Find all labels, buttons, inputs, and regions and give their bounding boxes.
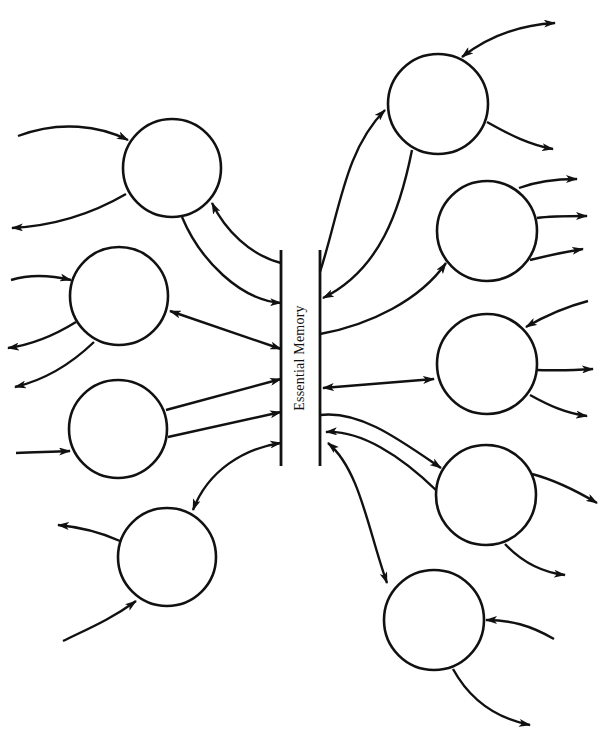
- edge-memory-to-R1: [320, 110, 385, 272]
- edge-L1-to-memory: [182, 217, 281, 303]
- edge-L2-memory: [170, 311, 281, 349]
- edge-L3-memory-2: [168, 412, 281, 437]
- process-node-R4: [436, 445, 536, 545]
- edge-R2-output-1: [519, 179, 577, 188]
- process-node-L3: [69, 380, 167, 478]
- edge-L3-input: [16, 451, 70, 453]
- process-node-L2: [70, 247, 168, 345]
- edge-L2-output-1: [8, 322, 76, 348]
- process-node-R3: [437, 314, 537, 414]
- edge-memory-to-R4: [320, 414, 441, 468]
- edge-R3-output-2: [530, 395, 587, 416]
- edge-L3-memory-1: [166, 379, 281, 410]
- edge-memory-to-L1: [212, 203, 281, 263]
- edge-L2-input: [11, 276, 71, 280]
- edge-R1-output: [487, 122, 553, 149]
- edge-R3-output-1: [537, 369, 593, 370]
- edge-R5-input: [486, 620, 554, 639]
- edge-R5-output: [453, 669, 530, 725]
- process-node-L1: [123, 119, 221, 217]
- process-node-R1: [388, 54, 488, 154]
- essential-memory-text: Essential Memory: [292, 305, 308, 410]
- process-node-R2: [437, 181, 537, 281]
- edge-L1-output: [12, 194, 126, 228]
- edge-R2-output-3: [530, 249, 583, 260]
- edge-R4-output-2: [505, 544, 565, 575]
- edge-R3-memory: [323, 379, 434, 388]
- edge-memory-R5: [328, 443, 387, 583]
- edge-L4-input: [63, 601, 136, 641]
- edge-memory-L4: [193, 443, 281, 510]
- edge-memory-R2: [320, 263, 446, 334]
- edge-L1-input: [18, 126, 128, 140]
- edge-R1-to-memory: [323, 150, 412, 298]
- edge-R3-input: [526, 301, 588, 327]
- edge-L2-output-2: [15, 342, 94, 387]
- edge-L4-output: [58, 525, 120, 541]
- edge-R2-output-2: [537, 216, 587, 218]
- edge-R1-bidirectional: [462, 23, 555, 57]
- edge-R4-output-1: [532, 474, 597, 503]
- process-node-R5: [384, 570, 484, 670]
- process-node-L4: [118, 508, 216, 606]
